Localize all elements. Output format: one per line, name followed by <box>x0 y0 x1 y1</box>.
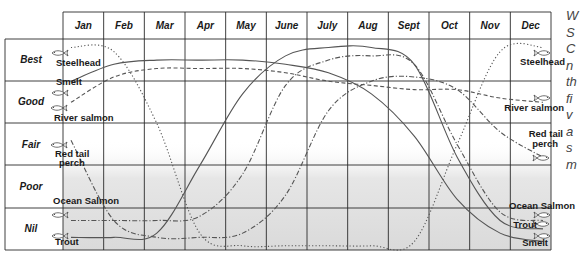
month-label: Feb <box>115 20 133 31</box>
side-caption-line: v <box>566 107 582 124</box>
label-left-steelhead: Steelhead <box>56 57 101 68</box>
fish-icon <box>534 95 550 101</box>
label-right-steelhead: Steelhead <box>520 56 565 67</box>
month-label: Apr <box>196 20 215 31</box>
rating-label: Best <box>20 54 42 65</box>
month-label: Oct <box>441 20 458 31</box>
side-caption-line: n <box>566 58 582 75</box>
side-caption-line: s <box>566 140 582 157</box>
side-caption-line: th <box>566 74 582 91</box>
side-caption-line: W <box>566 8 582 25</box>
side-caption-line: a <box>566 124 582 141</box>
month-label: May <box>236 20 256 31</box>
label-left-red-tail-perch-2: perch <box>59 157 85 168</box>
label-right-river-salmon: River salmon <box>504 102 564 113</box>
label-right-trout: Trout <box>513 219 538 230</box>
fish-icon <box>52 50 68 56</box>
month-label: Aug <box>357 20 377 31</box>
rating-label: Good <box>18 96 45 107</box>
fish-icon <box>52 90 68 96</box>
label-left-smelt: Smelt <box>56 76 83 87</box>
month-label: June <box>275 20 299 31</box>
month-label: Dec <box>521 20 540 31</box>
month-label: July <box>317 20 337 31</box>
month-label: Jan <box>75 20 92 31</box>
label-left-trout: Trout <box>55 236 80 247</box>
rating-label: Nil <box>25 223 38 234</box>
side-caption-line: m <box>566 157 582 174</box>
side-caption: WSCnthfivasm <box>566 8 582 173</box>
month-label: Mar <box>156 20 175 31</box>
month-label: Nov <box>481 20 501 31</box>
side-caption-line: fi <box>566 91 582 108</box>
side-caption-line: S <box>566 25 582 42</box>
label-left-river-salmon: River salmon <box>54 112 114 123</box>
label-left-ocean-salmon: Ocean Salmon <box>53 195 119 206</box>
rating-label: Fair <box>22 139 41 150</box>
fishing-chart: JanFebMarAprMayJuneJulyAugSeptOctNovDec … <box>0 0 582 258</box>
side-caption-line: C <box>566 41 582 58</box>
label-right-ocean-salmon: Ocean Salmon <box>509 200 575 211</box>
fish-icon <box>51 105 67 111</box>
rating-label: Poor <box>20 181 44 192</box>
month-label: Sept <box>398 20 420 31</box>
label-right-smelt: Smelt <box>522 237 549 248</box>
label-right-red-tail-perch-2: perch <box>532 138 558 149</box>
